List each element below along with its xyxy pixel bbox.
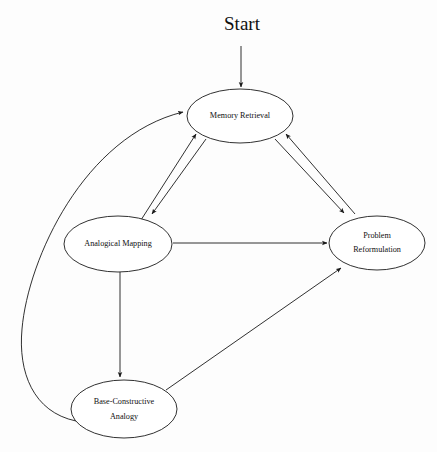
- analogical-mapping-label: Analogical Mapping: [84, 239, 152, 248]
- problem-reformulation-ellipse[interactable]: [329, 216, 425, 270]
- edge-base-to-reformulation: [166, 268, 341, 390]
- mapping-to-memory-arrow: [141, 134, 196, 220]
- node-base-constructive-analogy[interactable]: Base-Constructive Analogy: [71, 380, 177, 438]
- memory-retrieval-label: Memory Retrieval: [210, 111, 271, 120]
- edge-mapping-to-memory: [141, 134, 196, 220]
- node-problem-reformulation[interactable]: Problem Reformulation: [329, 216, 425, 270]
- memory-to-reformulation-arrow: [275, 139, 344, 213]
- problem-reformulation-label-line1: Problem: [363, 231, 391, 240]
- edge-memory-to-mapping: [152, 139, 206, 214]
- node-memory-retrieval[interactable]: Memory Retrieval: [187, 89, 293, 143]
- base-to-reformulation-arrow: [166, 268, 341, 390]
- base-constructive-analogy-label-line1: Base-Constructive: [94, 397, 155, 406]
- edge-reformulation-to-memory: [286, 134, 355, 214]
- memory-to-mapping-arrow: [152, 139, 206, 214]
- base-constructive-analogy-label-line2: Analogy: [110, 412, 139, 421]
- diagram-canvas: Memory Retrieval Analogical Mapping Prob…: [0, 0, 437, 452]
- flow-diagram: Memory Retrieval Analogical Mapping Prob…: [0, 0, 437, 452]
- base-constructive-analogy-ellipse[interactable]: [71, 380, 177, 438]
- edge-memory-to-reformulation: [275, 139, 344, 213]
- reformulation-to-memory-arrow: [286, 134, 355, 214]
- node-analogical-mapping[interactable]: Analogical Mapping: [64, 216, 172, 272]
- problem-reformulation-label-line2: Reformulation: [353, 245, 401, 254]
- start-label: Start: [224, 13, 261, 34]
